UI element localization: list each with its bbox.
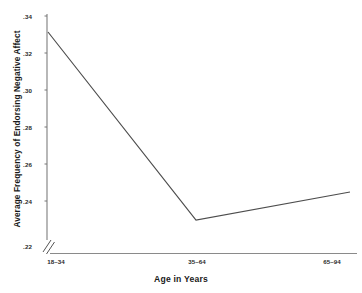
- axis-break-mark: [47, 242, 55, 254]
- x-tick-label: 35–64: [188, 258, 206, 265]
- plot-area: [0, 0, 362, 293]
- x-tick-label: 18–34: [47, 258, 65, 265]
- x-axis-title: Age in Years: [0, 274, 362, 284]
- x-tick-label: 65–94: [323, 258, 341, 265]
- data-series-line: [48, 32, 350, 220]
- axis-break-mark: [43, 240, 51, 252]
- chart-figure: Average Frequency of Endorsing Negative …: [0, 0, 362, 293]
